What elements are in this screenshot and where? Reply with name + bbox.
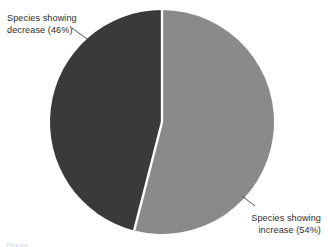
pie-label-increase: Species showing increase (54%) [251, 212, 321, 236]
pie-label-increase-line1: Species showing [251, 212, 321, 224]
leader-line-increase [242, 196, 255, 206]
figure-caption-clipped: Figure [6, 241, 29, 247]
pie-label-decrease: Species showing decrease (46%) [7, 12, 77, 36]
pie-label-increase-line2: increase (54%) [251, 224, 321, 236]
pie-label-decrease-line1: Species showing [7, 12, 77, 24]
pie-label-decrease-line2: decrease (46%) [7, 24, 77, 36]
